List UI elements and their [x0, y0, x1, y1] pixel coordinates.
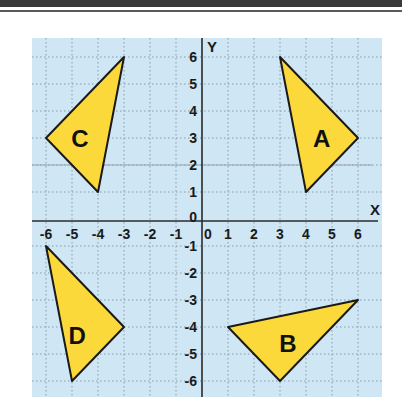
y-tick-label: -3: [185, 292, 198, 308]
x-tick-label: -2: [144, 226, 157, 242]
y-tick-label: -4: [185, 319, 198, 335]
triangle-label-d: D: [69, 322, 86, 349]
x-tick-label: -3: [118, 226, 131, 242]
x-tick-label: 1: [224, 226, 232, 242]
x-tick-label: -6: [40, 226, 53, 242]
triangle-label-c: C: [71, 125, 88, 152]
y-tick-label: -5: [185, 346, 198, 362]
y-tick-label: 6: [189, 49, 197, 65]
triangle-label-a: A: [313, 125, 330, 152]
y-tick-label: 0: [189, 209, 197, 225]
y-tick-label: 5: [189, 76, 197, 92]
y-tick-label: 4: [189, 103, 197, 119]
x-tick-label: 0: [204, 226, 212, 242]
x-tick-label: 5: [328, 226, 336, 242]
y-axis-label: Y: [207, 38, 217, 55]
x-tick-label: 3: [276, 226, 284, 242]
y-tick-label: -1: [185, 238, 198, 254]
y-tick-label: -2: [185, 265, 198, 281]
y-tick-label: 1: [189, 184, 197, 200]
x-axis-label: X: [370, 201, 380, 218]
x-tick-label: 2: [250, 226, 258, 242]
x-tick-label: 6: [354, 226, 362, 242]
x-tick-label: -4: [92, 226, 105, 242]
x-tick-label: -1: [170, 226, 183, 242]
y-tick-label: -6: [185, 373, 198, 389]
x-tick-label: 4: [302, 226, 310, 242]
y-tick-label: 2: [189, 157, 197, 173]
coordinate-grid: XY-6-5-4-3-2-101234566543210-1-2-3-4-5-6…: [0, 0, 402, 416]
x-tick-label: -5: [66, 226, 79, 242]
y-tick-label: 3: [189, 130, 197, 146]
triangle-label-b: B: [279, 330, 296, 357]
